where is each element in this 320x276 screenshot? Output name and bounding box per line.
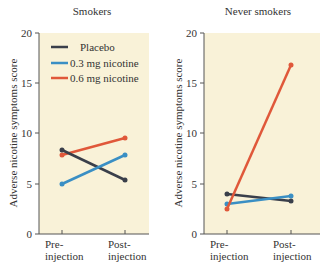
svg-text:injection: injection — [108, 250, 147, 262]
plot-background — [204, 33, 320, 234]
y-axis-label: Adverse nicotine symptoms score — [7, 58, 19, 207]
panel-smokers: Smokers 0 5 10 15 20 Adverse nicotine sy… — [7, 5, 149, 262]
svg-text:20: 20 — [21, 27, 33, 39]
panel-never-smokers: Never smokers 0 5 10 15 20 Adverse nicot… — [172, 5, 320, 262]
panel-title: Smokers — [73, 5, 112, 17]
x-tick-pre: Pre- — [210, 238, 229, 250]
svg-text:injection: injection — [273, 250, 312, 262]
svg-text:20: 20 — [186, 27, 198, 39]
panel-title: Never smokers — [225, 5, 291, 17]
x-tick-pre: Pre- — [45, 238, 64, 250]
y-ticks: 0 5 10 15 20 — [186, 27, 204, 240]
svg-text:0.6 mg nicotine: 0.6 mg nicotine — [70, 72, 139, 84]
svg-text:10: 10 — [21, 127, 33, 139]
chart-root: Smokers 0 5 10 15 20 Adverse nicotine sy… — [0, 0, 320, 276]
y-axis-label: Adverse nicotine symptoms score — [172, 58, 184, 207]
svg-text:injection: injection — [210, 250, 249, 262]
svg-text:injection: injection — [45, 250, 84, 262]
svg-text:Placebo: Placebo — [80, 41, 115, 53]
svg-text:0.3 mg nicotine: 0.3 mg nicotine — [70, 57, 139, 69]
svg-text:15: 15 — [21, 77, 33, 89]
svg-text:5: 5 — [27, 178, 33, 190]
x-tick-post: Post- — [273, 238, 296, 250]
svg-text:0: 0 — [192, 228, 198, 240]
svg-text:0: 0 — [27, 228, 33, 240]
svg-text:5: 5 — [192, 178, 198, 190]
y-ticks: 0 5 10 15 20 — [21, 27, 39, 240]
x-tick-post: Post- — [108, 238, 131, 250]
svg-text:10: 10 — [186, 127, 198, 139]
svg-text:15: 15 — [186, 77, 198, 89]
